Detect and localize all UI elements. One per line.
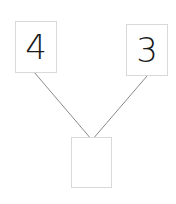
left-part-value: 4	[25, 30, 47, 64]
left-connector-line	[34, 72, 92, 140]
right-part-value: 3	[136, 33, 158, 67]
right-connector-line	[92, 76, 147, 140]
right-part-box: 3	[126, 24, 168, 76]
whole-answer-box[interactable]	[71, 137, 112, 188]
left-part-box: 4	[15, 21, 57, 73]
